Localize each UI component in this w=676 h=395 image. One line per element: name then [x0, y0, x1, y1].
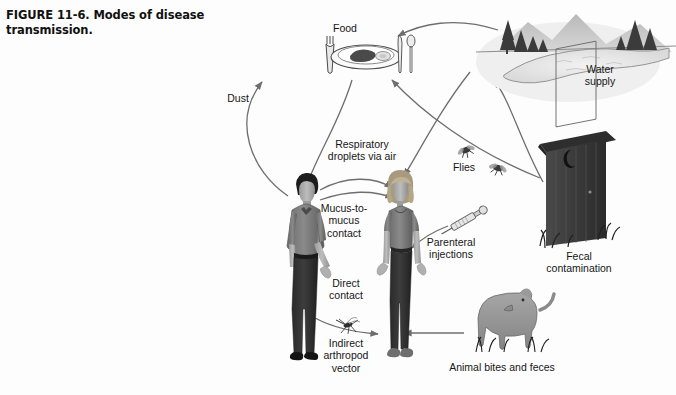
label-respiratory-droplets: Respiratory droplets via air	[313, 138, 411, 163]
person-female-icon	[377, 170, 426, 357]
label-flies: Flies	[446, 161, 482, 173]
label-indirect-arthropod-vector: Indirect arthropod vector	[311, 337, 381, 374]
label-fecal-contamination: Fecal contamination	[531, 250, 627, 275]
arrow-food-to-man	[308, 80, 352, 182]
syringe-icon	[440, 205, 489, 238]
dog-icon	[476, 289, 554, 352]
label-water-supply: Water supply	[570, 63, 630, 88]
arrow-water-to-food	[398, 23, 498, 36]
diagram-artwork	[0, 0, 676, 395]
label-mucus-contact: Mucus-to- mucus contact	[311, 202, 377, 239]
label-dust: Dust	[210, 92, 266, 104]
label-food: Food	[313, 22, 377, 34]
arrow-respiratory-man-to-woman	[320, 179, 392, 190]
label-animal-bites: Animal bites and feces	[430, 361, 574, 373]
label-parenteral-injections: Parenteral injections	[414, 236, 488, 261]
arrow-mucus-man-to-woman	[320, 192, 393, 200]
figure-container: FIGURE 11-6. Modes of disease transmissi…	[0, 0, 676, 395]
plate-fork-knife-spoon-icon	[326, 35, 415, 74]
label-direct-contact: Direct contact	[318, 277, 374, 302]
lake-trees-mountains-icon	[476, 14, 676, 102]
